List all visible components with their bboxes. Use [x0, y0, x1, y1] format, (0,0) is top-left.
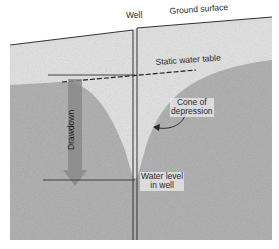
well-drawdown-diagram: Well Ground surface Static water table C… — [0, 0, 279, 249]
diagram-canvas — [0, 0, 279, 249]
water-level-label: Water level in well — [140, 172, 184, 191]
well-label: Well — [126, 11, 142, 20]
cone-of-depression-label: Cone of depression — [170, 98, 214, 117]
cone-label-line2: depression — [171, 107, 213, 116]
water-level-label-line2: in well — [141, 181, 183, 190]
drawdown-label: Drawdown — [66, 110, 76, 150]
